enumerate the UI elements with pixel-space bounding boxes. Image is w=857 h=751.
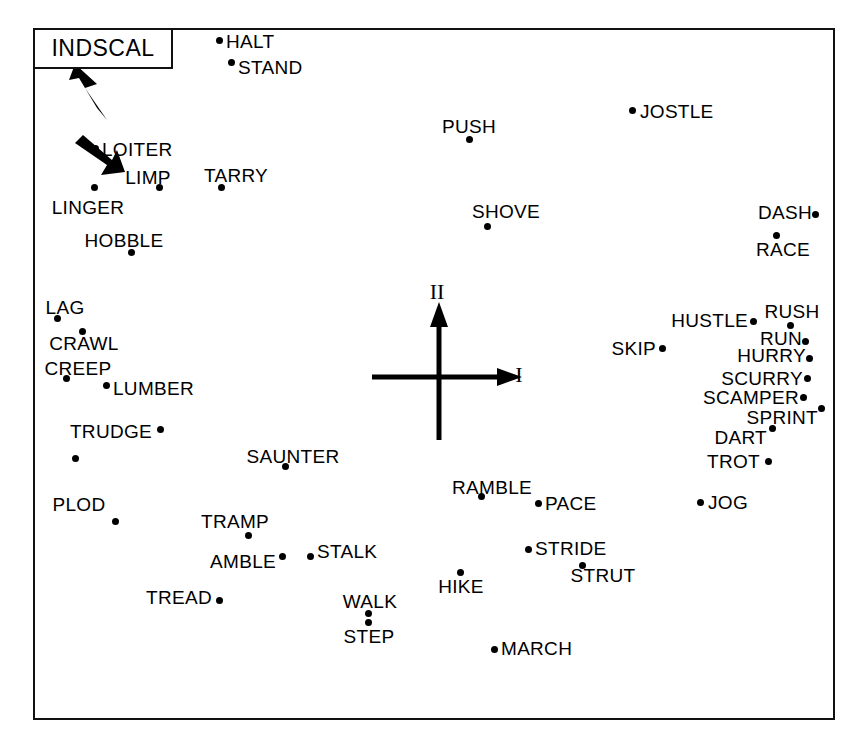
point-label: TREAD	[146, 588, 212, 607]
data-point	[307, 553, 314, 560]
data-point	[457, 569, 464, 576]
point-label: STRIDE	[535, 539, 606, 558]
point-label: MARCH	[501, 639, 572, 658]
data-point	[806, 355, 813, 362]
point-label: LUMBER	[113, 379, 194, 398]
point-label: DASH	[758, 203, 812, 222]
data-point	[491, 646, 498, 653]
point-label: LIMP	[125, 168, 171, 187]
data-point	[804, 375, 811, 382]
data-point	[769, 425, 776, 432]
point-label: STALK	[317, 542, 377, 561]
point-label: CREEP	[45, 359, 112, 378]
point-label: SPRINT	[747, 408, 818, 427]
data-point	[112, 518, 119, 525]
point-label: CRAWL	[49, 334, 118, 353]
point-label: HALT	[226, 32, 274, 51]
point-label: JOG	[708, 493, 748, 512]
point-label: HOBBLE	[85, 231, 164, 250]
data-point	[765, 458, 772, 465]
point-label: AMBLE	[210, 552, 276, 571]
point-label: SAUNTER	[247, 447, 340, 466]
data-point	[216, 597, 223, 604]
point-label: HIKE	[438, 577, 484, 596]
point-label: SCAMPER	[703, 388, 799, 407]
data-point	[484, 223, 491, 230]
point-label: LOITER	[102, 140, 172, 159]
data-point	[103, 382, 110, 389]
point-label-annotated: PLOD	[53, 495, 106, 514]
point-label: TRUDGE	[70, 422, 152, 441]
method-title-label: INDSCAL	[51, 37, 154, 60]
point-label: RAMBLE	[452, 478, 532, 497]
data-point	[216, 37, 223, 44]
point-label: STAND	[238, 58, 302, 77]
data-point	[802, 338, 809, 345]
point-label: SCURRY	[721, 369, 803, 388]
plod-pointer-arrows	[35, 30, 837, 722]
point-label: JOSTLE	[640, 102, 714, 121]
point-label: RACE	[756, 240, 810, 259]
method-title-box: INDSCAL	[33, 28, 173, 69]
point-label: TROT	[707, 452, 760, 471]
point-label: PACE	[545, 494, 597, 513]
data-point	[812, 211, 819, 218]
data-point	[72, 455, 79, 462]
point-label: SHOVE	[472, 202, 540, 221]
indscal-scatter-plot: INDSCAL I II HALTSTANDJOSTLEPUSHLOITERLI…	[0, 0, 857, 751]
data-point	[818, 405, 825, 412]
data-point	[800, 394, 807, 401]
point-label: HUSTLE	[671, 311, 748, 330]
data-point	[92, 145, 99, 152]
point-label: HURRY	[737, 346, 806, 365]
data-point	[535, 500, 542, 507]
data-point	[525, 546, 532, 553]
data-point	[629, 107, 636, 114]
point-label: DART	[714, 428, 767, 447]
point-label: STRUT	[571, 566, 636, 585]
point-label: RUSH	[764, 302, 819, 321]
data-point	[91, 184, 98, 191]
axis-label-dimension-2: II	[430, 281, 445, 303]
data-point	[279, 553, 286, 560]
data-point	[157, 426, 164, 433]
data-point	[750, 318, 757, 325]
data-point	[228, 59, 235, 66]
point-label: LAG	[46, 298, 85, 317]
point-label: SKIP	[612, 339, 657, 358]
point-label: LINGER	[52, 198, 125, 217]
data-point	[773, 232, 780, 239]
data-point	[365, 619, 372, 626]
plot-frame	[33, 28, 835, 720]
point-label: WALK	[343, 592, 397, 611]
axis-label-dimension-1: I	[515, 364, 522, 386]
point-label: TRAMP	[201, 512, 269, 531]
point-label: PUSH	[442, 117, 496, 136]
data-point	[245, 532, 252, 539]
point-label: TARRY	[204, 166, 268, 185]
data-point	[697, 499, 704, 506]
point-label: STEP	[344, 627, 395, 646]
data-point	[659, 345, 666, 352]
data-point	[466, 136, 473, 143]
